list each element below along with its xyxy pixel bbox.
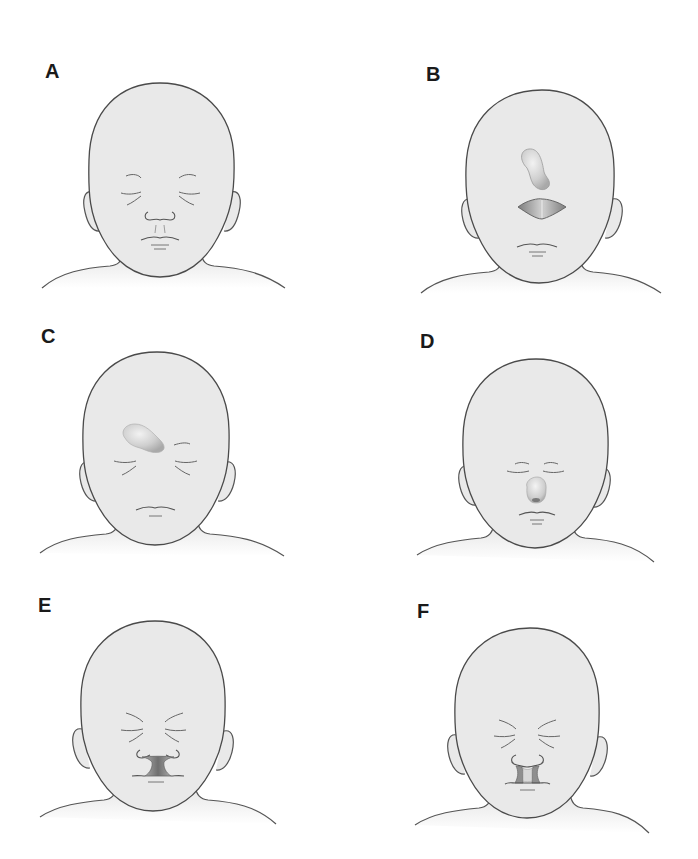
- panel-d: D: [349, 290, 698, 570]
- panel-f: F: [349, 570, 698, 859]
- panel-c: C: [0, 290, 349, 570]
- infant-face-median-cleft: [0, 570, 349, 859]
- infant-face-single-nostril: [349, 290, 698, 570]
- infant-face-normal: [0, 0, 349, 300]
- panel-a: A: [0, 0, 349, 300]
- nostril: [532, 498, 540, 502]
- head-outline: [89, 83, 234, 277]
- infant-face-proboscis-forehead: [349, 0, 698, 300]
- panel-b: B: [349, 0, 698, 300]
- panel-e: E: [0, 570, 349, 859]
- premaxillary-segment: [523, 768, 532, 782]
- infant-face-bilateral-cleft: [349, 570, 698, 859]
- infant-face-proboscis-glabella: [0, 290, 349, 570]
